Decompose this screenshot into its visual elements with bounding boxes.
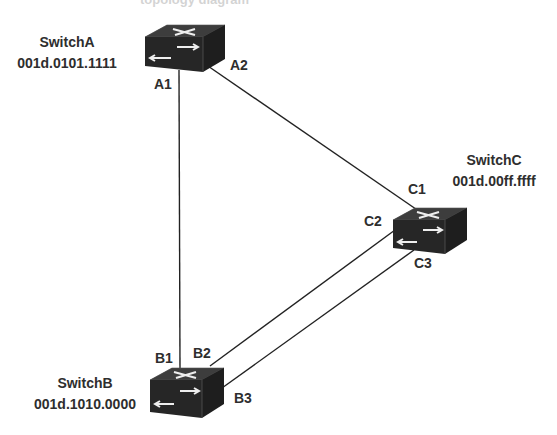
link-b2-c2	[210, 230, 395, 366]
port-b3-label: B3	[234, 390, 252, 406]
switch-a-name: SwitchA	[14, 32, 120, 53]
switch-a-label: SwitchA 001d.0101.1111	[14, 32, 120, 74]
port-a2-label: A2	[230, 57, 248, 73]
switch-c-name: SwitchC	[440, 150, 548, 171]
port-a1-label: A1	[154, 76, 172, 92]
switch-c-mac: 001d.00ff.ffff	[440, 171, 548, 192]
switch-b-label: SwitchB 001d.1010.0000	[24, 373, 146, 415]
link-a1-b1	[179, 70, 180, 368]
port-b2-label: B2	[193, 345, 211, 361]
switch-c-icon[interactable]	[393, 208, 467, 254]
port-b1-label: B1	[155, 350, 173, 366]
port-c2-label: C2	[364, 213, 382, 229]
switch-c-label: SwitchC 001d.00ff.ffff	[440, 150, 548, 192]
switch-b-icon[interactable]	[150, 368, 224, 418]
port-c3-label: C3	[414, 255, 432, 271]
topology-canvas: topology diagram	[0, 0, 557, 435]
switch-b-mac: 001d.1010.0000	[24, 394, 146, 415]
switch-a-icon[interactable]	[145, 25, 225, 72]
switch-a-mac: 001d.0101.1111	[14, 53, 120, 74]
link-a2-c1	[205, 64, 426, 216]
port-c1-label: C1	[408, 181, 426, 197]
switch-b-name: SwitchB	[24, 373, 146, 394]
link-b3-c3	[222, 250, 414, 388]
